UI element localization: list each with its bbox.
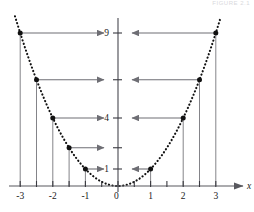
x-tick-label: -1 bbox=[81, 191, 89, 201]
data-point bbox=[34, 77, 39, 82]
data-point bbox=[181, 116, 186, 121]
x-tick-label: 3 bbox=[213, 191, 218, 201]
x-tick-label: 1 bbox=[148, 191, 153, 201]
data-point bbox=[18, 31, 23, 36]
y-tick-group: 149 bbox=[104, 28, 122, 174]
data-point bbox=[213, 31, 218, 36]
x-tick-label: 2 bbox=[181, 191, 186, 201]
data-point bbox=[83, 167, 88, 172]
data-point bbox=[197, 77, 202, 82]
data-point bbox=[148, 167, 153, 172]
x-axis-label: x bbox=[246, 181, 252, 191]
data-point bbox=[50, 116, 55, 121]
y-tick-label: 4 bbox=[104, 113, 109, 123]
y-tick-label: 1 bbox=[104, 164, 109, 174]
parabola-figure: x -3-2-1123 149 0 bbox=[0, 0, 254, 212]
y-tick-label: 9 bbox=[104, 28, 109, 38]
x-tick-label: -2 bbox=[49, 191, 57, 201]
x-tick-label: -3 bbox=[16, 191, 24, 201]
data-point bbox=[67, 145, 72, 150]
origin-label: 0 bbox=[114, 191, 119, 201]
